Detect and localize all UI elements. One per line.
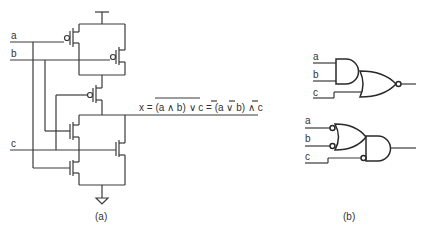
top-input-label-b: b: [313, 69, 319, 80]
bottom-input-label-c: c: [305, 151, 310, 162]
bottom-input-label-a: a: [305, 115, 311, 126]
bottom-input-label-b: b: [305, 133, 311, 144]
input-label-c: c: [11, 138, 16, 149]
cmos-circuit: a b c x = (a ∧ b) ∨ c = (a ∨ b) ∧ c (a): [10, 12, 263, 222]
output-equation: x = (a ∧ b) ∨ c = (a ∨ b) ∧ c: [139, 102, 263, 113]
top-input-label-c: c: [313, 87, 318, 98]
input-label-b: b: [11, 48, 17, 59]
caption-a: (a): [95, 211, 107, 222]
top-input-label-a: a: [313, 51, 319, 62]
input-label-a: a: [11, 30, 17, 41]
caption-b: (b): [343, 211, 355, 222]
and-nor-circuit: a b c: [313, 51, 416, 98]
gate-circuits: a b c a b c (b): [305, 51, 416, 222]
or-and-circuit: a b c: [305, 115, 416, 163]
circuit-diagram: a b c x = (a ∧ b) ∨ c = (a ∨ b) ∧ c (a) …: [0, 0, 428, 234]
